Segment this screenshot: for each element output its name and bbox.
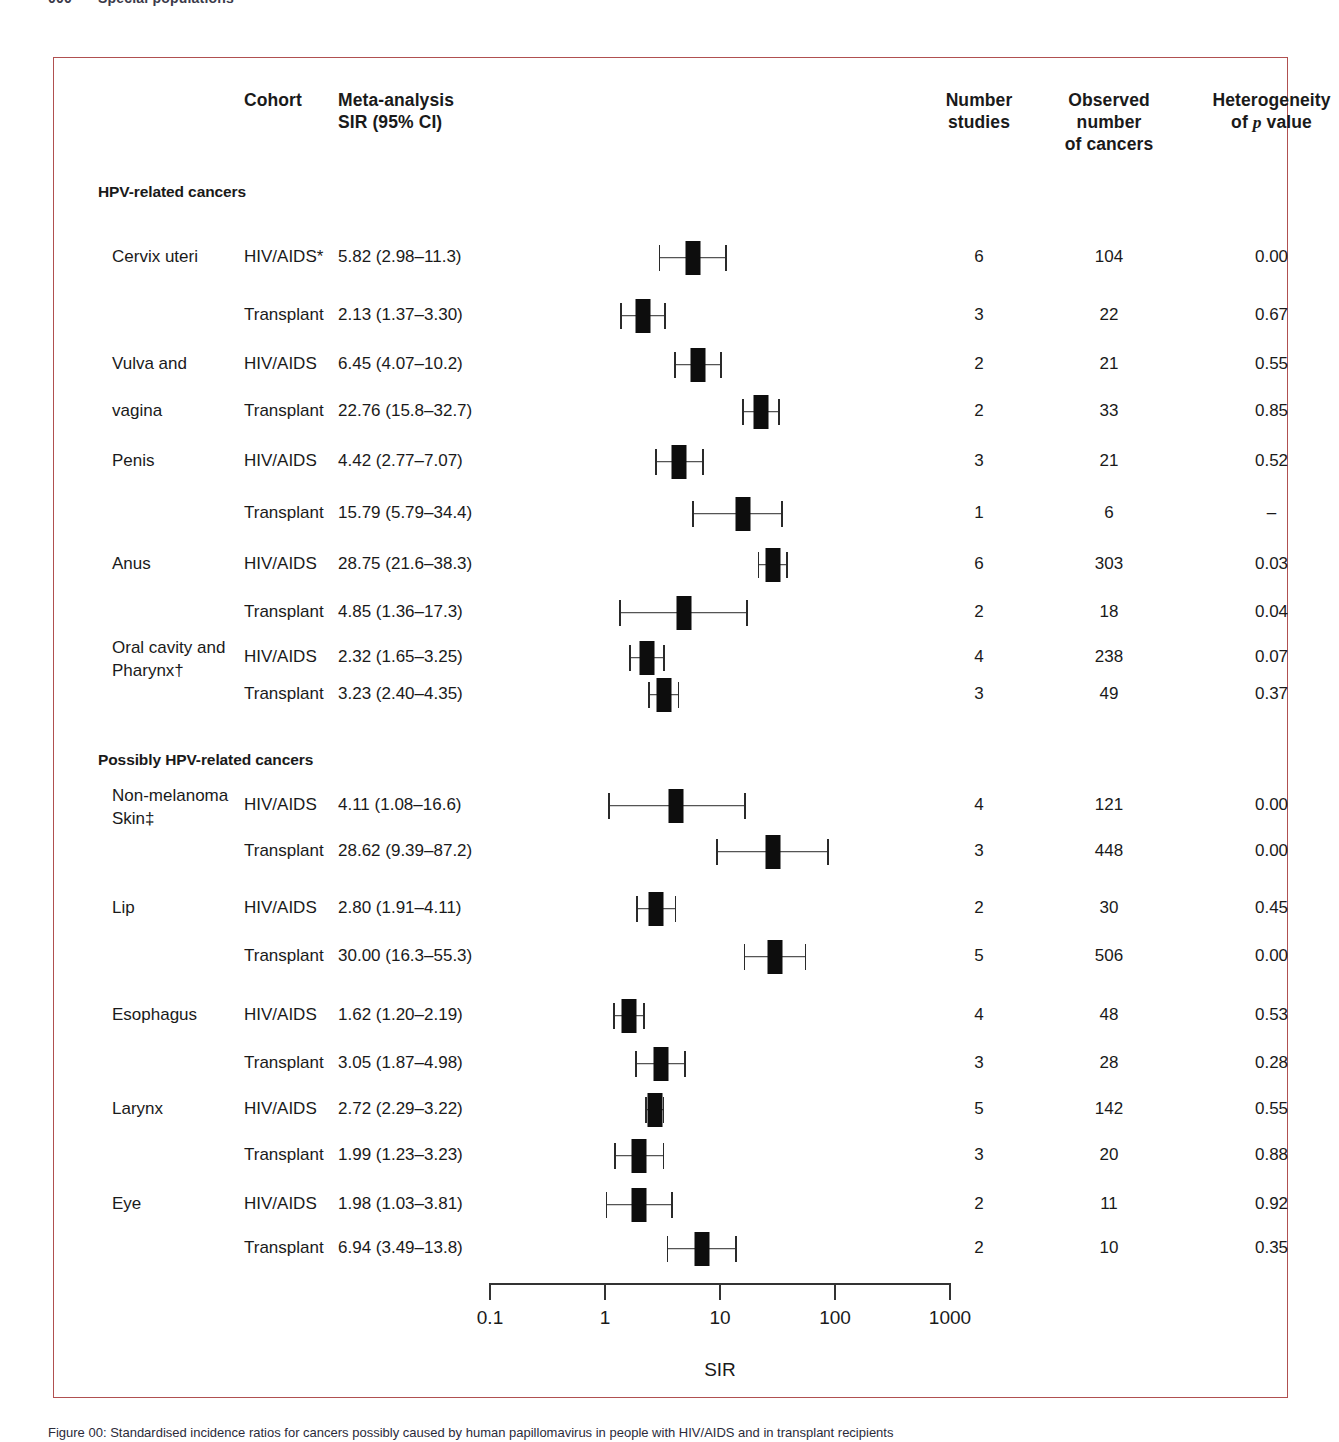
ci-upper-cap (735, 1236, 737, 1262)
column-header-estimate-line2: SIR (95% CI) (338, 112, 442, 133)
ci-upper-cap (663, 1143, 665, 1169)
axis-tick-label: 0.1 (445, 1307, 535, 1329)
ci-upper-cap (746, 600, 748, 626)
ci-upper-cap (744, 793, 746, 819)
ci-lower-cap (758, 552, 760, 578)
ci-lower-cap (674, 352, 676, 378)
forest-marker (54, 1155, 1287, 1156)
axis-tick-label: 1000 (905, 1307, 995, 1329)
section-heading: Possibly HPV-related cancers (98, 751, 313, 769)
forest-marker (54, 513, 1287, 514)
axis-tick (719, 1283, 721, 1300)
point-estimate-box (622, 999, 637, 1033)
ci-lower-cap (606, 1192, 608, 1218)
forest-marker (54, 461, 1287, 462)
ci-lower-cap (655, 449, 657, 475)
section-heading: HPV-related cancers (98, 183, 246, 201)
axis-title: SIR (620, 1359, 820, 1381)
cancer-site-label: Oral cavity and (112, 638, 225, 658)
column-header-estimate-line1: Meta-analysis (338, 90, 454, 111)
ci-upper-cap (664, 303, 666, 329)
point-estimate-box (765, 548, 780, 582)
point-estimate-box (640, 641, 655, 675)
column-header-observed-line3: of cancers (1039, 134, 1179, 155)
cancer-site-label-line2: Skin‡ (112, 809, 155, 829)
ci-lower-cap (648, 682, 650, 708)
axis-tick-label: 100 (790, 1307, 880, 1329)
column-header-heterogeneity-line1: Heterogeneity (1184, 90, 1339, 111)
ci-upper-cap (781, 501, 783, 527)
ci-upper-cap (678, 682, 680, 708)
column-header-studies-line2: studies (919, 112, 1039, 133)
forest-marker (54, 257, 1287, 258)
ci-upper-cap (805, 944, 807, 970)
forest-marker (54, 364, 1287, 365)
page-folio: 000 (48, 0, 72, 6)
ci-lower-cap (613, 1003, 615, 1029)
column-header-observed-line1: Observed (1039, 90, 1179, 111)
ci-lower-cap (629, 645, 631, 671)
point-estimate-box (676, 596, 691, 630)
heterogeneity-prefix: of (1231, 112, 1253, 132)
column-header-cohort: Cohort (244, 90, 302, 111)
axis-tick (604, 1283, 606, 1300)
point-estimate-box (765, 835, 780, 869)
column-header-heterogeneity-line2: of p value (1184, 112, 1339, 133)
figure-frame: Cohort Meta-analysis SIR (95% CI) Number… (53, 57, 1288, 1398)
ci-lower-cap (619, 600, 621, 626)
ci-upper-cap (786, 552, 788, 578)
column-header-observed-line2: number (1039, 112, 1179, 133)
forest-marker (54, 956, 1287, 957)
forest-marker (54, 315, 1287, 316)
point-estimate-box (647, 1093, 662, 1127)
heterogeneity-suffix: value (1262, 112, 1312, 132)
axis-tick (834, 1283, 836, 1300)
axis-tick (949, 1283, 951, 1300)
point-estimate-box (632, 1188, 647, 1222)
forest-marker (54, 612, 1287, 613)
point-estimate-box (653, 1047, 668, 1081)
point-estimate-box (754, 395, 769, 429)
forest-marker (54, 411, 1287, 412)
ci-lower-cap (716, 839, 718, 865)
ci-lower-cap (636, 896, 638, 922)
ci-upper-cap (671, 1192, 673, 1218)
ci-upper-cap (663, 645, 665, 671)
ci-upper-cap (827, 839, 829, 865)
axis-tick (489, 1283, 491, 1300)
forest-marker (54, 694, 1287, 695)
point-estimate-box (694, 1232, 709, 1266)
ci-upper-cap (663, 1097, 665, 1123)
forest-marker (54, 564, 1287, 565)
forest-marker (54, 1063, 1287, 1064)
ci-lower-cap (614, 1143, 616, 1169)
ci-upper-cap (720, 352, 722, 378)
column-header-studies-line1: Number (919, 90, 1039, 111)
point-estimate-box (691, 348, 706, 382)
cancer-site-label-line2: Pharynx† (112, 661, 184, 681)
forest-marker (54, 805, 1287, 806)
ci-lower-cap (635, 1051, 637, 1077)
ci-lower-cap (692, 501, 694, 527)
ci-lower-cap (744, 944, 746, 970)
point-estimate-box (735, 497, 750, 531)
point-estimate-box (635, 299, 650, 333)
forest-marker (54, 908, 1287, 909)
forest-marker (54, 1109, 1287, 1110)
point-estimate-box (649, 892, 664, 926)
ci-lower-cap (667, 1236, 669, 1262)
ci-upper-cap (675, 896, 677, 922)
point-estimate-box (685, 241, 700, 275)
forest-marker (54, 657, 1287, 658)
point-estimate-box (632, 1139, 647, 1173)
ci-upper-cap (643, 1003, 645, 1029)
point-estimate-box (668, 789, 683, 823)
point-estimate-box (767, 940, 782, 974)
forest-marker (54, 1248, 1287, 1249)
figure-caption: Figure 00: Standardised incidence ratios… (48, 1424, 1298, 1442)
running-head-title: Special populations (98, 0, 234, 6)
ci-lower-cap (659, 245, 661, 271)
point-estimate-box (672, 445, 687, 479)
running-head: 000Special populations (48, 0, 234, 6)
cancer-site-label: Non-melanoma (112, 786, 228, 806)
